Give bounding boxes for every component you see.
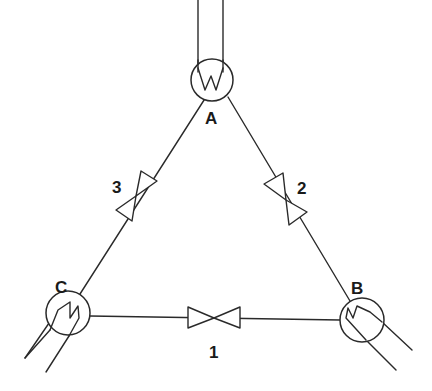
label-c: C [55, 278, 67, 297]
exchanger-b[interactable] [340, 298, 384, 342]
pipe-c-outlet-2 [46, 336, 69, 372]
gate-valve-icon [188, 307, 214, 328]
label-valve-1: 1 [209, 343, 218, 362]
valve-3[interactable] [116, 171, 157, 221]
exchanger-a[interactable] [191, 59, 233, 101]
pipe-b-outlet-1 [382, 322, 412, 350]
gate-valve-icon [136, 171, 157, 196]
label-valve-2: 2 [297, 179, 306, 198]
gate-valve-icon [264, 173, 286, 200]
pipe-b-outlet-2 [366, 340, 396, 370]
label-valve-3: 3 [112, 178, 121, 197]
exchanger-c-circle [46, 291, 90, 335]
gate-valve-icon [116, 196, 136, 221]
pipe-c-in-seg1 [25, 330, 50, 358]
label-a: A [205, 109, 217, 128]
pipe-a-c [80, 97, 206, 294]
valve-1[interactable] [188, 307, 240, 328]
exchanger-c[interactable] [25, 291, 90, 358]
piping-diagram: A B C 1 2 3 [0, 0, 432, 391]
pipe-a-b [228, 97, 350, 301]
gate-valve-icon [214, 307, 240, 328]
gate-valve-icon [286, 200, 307, 225]
label-b: B [351, 279, 363, 298]
